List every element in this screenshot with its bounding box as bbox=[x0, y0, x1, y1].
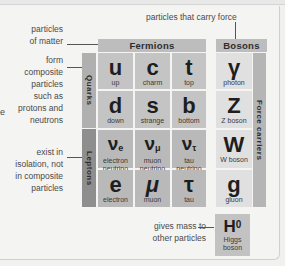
particle-bottom: bbottom bbox=[172, 91, 206, 128]
annotation-line: form bbox=[10, 54, 63, 66]
symbol: τ bbox=[172, 174, 206, 196]
name: charm bbox=[135, 79, 170, 87]
annotation-mass: gives mass to other particles bbox=[140, 220, 206, 244]
annotation-line: in composite bbox=[5, 170, 63, 182]
symbol: b bbox=[172, 95, 206, 117]
particle-electron-neutrino: νeelectronneutrino bbox=[98, 130, 133, 168]
particle-tau-neutrino: ντtauneutrino bbox=[172, 130, 206, 168]
symbol: ν bbox=[108, 133, 119, 154]
name: up bbox=[98, 79, 133, 87]
particle-muon-neutrino: νμmuonneutrino bbox=[135, 130, 170, 168]
name: muon bbox=[135, 157, 170, 165]
particle-tau: τtau bbox=[172, 170, 206, 207]
symbol: s bbox=[135, 95, 170, 117]
annotation-force: particles that carry force bbox=[146, 11, 281, 23]
particle-up: uup bbox=[98, 53, 133, 89]
annotation-line: other particles bbox=[140, 232, 206, 244]
annotation-composite: form composite particles such as protons… bbox=[10, 54, 63, 126]
name: down bbox=[98, 117, 133, 125]
subscript: e bbox=[118, 143, 123, 153]
particle-photon: γphoton bbox=[216, 53, 252, 89]
name: boson bbox=[215, 244, 250, 252]
particle-strange: sstrange bbox=[135, 91, 170, 128]
pointer-line bbox=[235, 22, 236, 40]
name: photon bbox=[216, 79, 252, 87]
symbol: ν bbox=[182, 133, 193, 154]
annotation-line: exist in bbox=[5, 146, 63, 158]
name: electron bbox=[98, 196, 133, 204]
quarks-text: Quarks bbox=[85, 75, 94, 106]
particle-gluon: ggluon bbox=[216, 170, 252, 207]
annotation-line: protons and bbox=[10, 102, 63, 114]
particle-top: ttop bbox=[172, 53, 206, 89]
annotation-isolation: exist in isolation, not in composite par… bbox=[5, 146, 63, 194]
annotation-line: composite bbox=[10, 66, 63, 78]
name: Higgs bbox=[215, 236, 250, 244]
name: bottom bbox=[172, 117, 206, 125]
annotation-matter: particles of matter bbox=[20, 23, 63, 47]
symbol: g bbox=[216, 174, 252, 196]
top-rule bbox=[0, 0, 285, 5]
name: W boson bbox=[216, 156, 252, 164]
symbol: u bbox=[98, 57, 133, 79]
name: electron bbox=[98, 157, 133, 165]
annotation-line: gives mass to bbox=[140, 220, 206, 232]
name: tau bbox=[172, 196, 206, 204]
bosons-header: Bosons bbox=[216, 39, 267, 52]
particle-muon: μmuon bbox=[135, 170, 170, 207]
symbol: γ bbox=[216, 57, 252, 79]
force-carriers-label: Force carriers bbox=[253, 53, 266, 207]
quarks-label: Quarks bbox=[82, 53, 96, 128]
annotation-line: particles bbox=[5, 182, 63, 194]
symbol: ν bbox=[144, 133, 155, 154]
symbol: Z bbox=[216, 95, 252, 117]
force-carriers-text: Force carriers bbox=[255, 100, 264, 160]
leptons-label: Leptons bbox=[82, 129, 96, 207]
name: tau bbox=[172, 157, 206, 165]
pointer-line bbox=[198, 227, 214, 228]
name: muon bbox=[135, 196, 170, 204]
symbol: H bbox=[224, 217, 236, 236]
particle-z-boson: ZZ boson bbox=[216, 91, 252, 128]
name: strange bbox=[135, 117, 170, 125]
particle-charm: ccharm bbox=[135, 53, 170, 89]
annotation-line: isolation, not bbox=[5, 158, 63, 170]
superscript: 0 bbox=[236, 219, 242, 230]
subscript: τ bbox=[192, 143, 196, 153]
symbol: μ bbox=[135, 174, 170, 196]
symbol: c bbox=[135, 57, 170, 79]
symbol: t bbox=[172, 57, 206, 79]
particle-electron: eelectron bbox=[98, 170, 133, 207]
particle-w-boson: WW boson bbox=[216, 130, 252, 168]
particle-down: ddown bbox=[98, 91, 133, 128]
symbol: e bbox=[98, 174, 133, 196]
annotation-line: particles bbox=[20, 23, 63, 35]
subscript: μ bbox=[155, 143, 161, 153]
symbol: d bbox=[98, 95, 133, 117]
leptons-text: Leptons bbox=[85, 151, 94, 186]
particle-higgs: H0Higgsboson bbox=[215, 214, 250, 256]
annotation-cut: e bbox=[0, 106, 8, 118]
annotation-line: particles bbox=[10, 78, 63, 90]
name: gluon bbox=[216, 196, 252, 204]
annotation-line: of matter bbox=[20, 35, 63, 47]
name: top bbox=[172, 79, 206, 87]
fermions-header: Fermions bbox=[98, 39, 206, 52]
symbol: W bbox=[216, 134, 252, 156]
name: Z boson bbox=[216, 117, 252, 125]
annotation-line: such as bbox=[10, 90, 63, 102]
annotation-line: neutrons bbox=[10, 114, 63, 126]
